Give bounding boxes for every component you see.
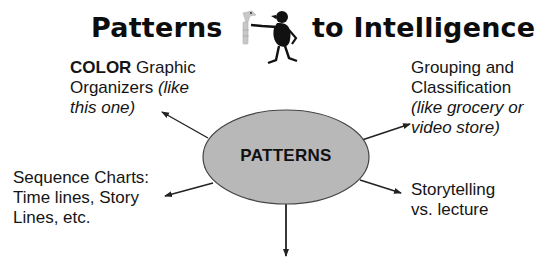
title-to-intelligence: to Intelligence [312, 12, 535, 43]
like-word: (like [158, 78, 189, 97]
color-word: COLOR [70, 58, 131, 77]
node-storytelling: Storytelling vs. lecture [411, 180, 495, 220]
grouping-line3: (like grocery or [411, 98, 523, 118]
diagram-canvas: Patterns [0, 0, 555, 266]
arrow-to-sequence [165, 183, 213, 196]
grouping-line4: video store) [411, 118, 523, 138]
storytelling-line2: vs. lecture [411, 200, 495, 220]
grouping-line2: Classification [411, 78, 523, 98]
center-label: PATTERNS [203, 146, 369, 166]
node-grouping: Grouping and Classification (like grocer… [411, 58, 523, 138]
this-one-text: this one) [70, 98, 196, 118]
stick-figure-holding-giraffe-icon [243, 11, 297, 63]
arrow-to-grouping [362, 124, 410, 140]
node-sequence: Sequence Charts: Time lines, Story Lines… [13, 168, 149, 228]
sequence-line3: Lines, etc. [13, 208, 149, 228]
grouping-line1: Grouping and [411, 58, 523, 78]
graphic-word: Graphic [131, 58, 195, 77]
sequence-line2: Time lines, Story [13, 188, 149, 208]
storytelling-line1: Storytelling [411, 180, 495, 200]
node-color-organizers: COLOR Graphic Organizers (like this one) [70, 58, 196, 118]
sequence-line1: Sequence Charts: [13, 168, 149, 188]
arrow-to-storytelling [360, 180, 401, 193]
organizers-word: Organizers [70, 78, 158, 97]
